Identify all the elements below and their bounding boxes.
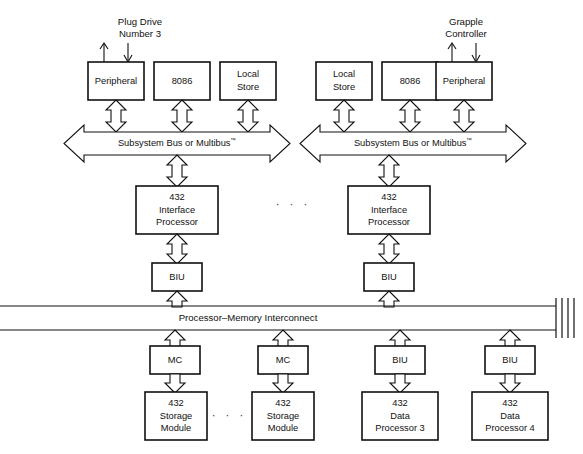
right-bus-to-ip-arrow-icon — [379, 155, 399, 187]
storage-module-2-label-line2: Storage — [267, 411, 300, 421]
right-peripheral-bus-arrow-icon — [454, 100, 474, 132]
storage-module-1-label-line2: Storage — [160, 411, 193, 421]
right-biu-box[interactable]: BIU — [364, 263, 414, 291]
right-bus-label: Subsystem Bus or Multibus™ — [354, 137, 472, 148]
right-ip-to-biu-arrow-icon — [379, 234, 399, 264]
right-peripheral-box[interactable]: Peripheral — [436, 62, 492, 100]
mc-1-label: MC — [168, 355, 183, 365]
left-interface-processor-box[interactable]: 432 Interface Processor — [136, 186, 218, 234]
plug-drive-arrow-down-icon — [124, 43, 132, 62]
mc-1-to-storage-arrow-icon — [165, 374, 185, 393]
data-processor-3-label-line2: Data — [390, 411, 410, 421]
ellipsis-between-storage-modules: · · · — [211, 407, 246, 422]
data-processor-4-box[interactable]: 432 Data Processor 4 — [472, 392, 548, 440]
biu-3-label: BIU — [392, 355, 408, 365]
right-ip-label-line3: Processor — [368, 217, 410, 227]
right-peripheral-label: Peripheral — [443, 76, 485, 86]
storage-module-2-label-line1: 432 — [275, 398, 291, 408]
biu-3-to-data-processor-arrow-icon — [390, 374, 410, 393]
left-local-store-label-line2: Store — [237, 82, 259, 92]
right-8086-box[interactable]: 8086 — [382, 62, 438, 100]
left-peripheral-label: Peripheral — [95, 76, 137, 86]
data-processor-3-box[interactable]: 432 Data Processor 3 — [362, 392, 438, 440]
right-ip-label-line1: 432 — [381, 192, 397, 202]
data-processor-4-label-line3: Processor 4 — [485, 423, 535, 433]
right-biu-to-interconnect-arrow-icon — [379, 291, 399, 307]
left-peripheral-box[interactable]: Peripheral — [88, 62, 144, 100]
left-8086-bus-arrow-icon — [172, 100, 192, 132]
storage-module-1-label-line3: Module — [161, 423, 192, 433]
processor-memory-interconnect-label: Processor–Memory Interconnect — [179, 312, 318, 323]
left-local-store-box[interactable]: Local Store — [220, 62, 276, 100]
plug-drive-label-line2: Number 3 — [119, 28, 161, 39]
diagram-canvas: Plug Drive Number 3 Grapple Controller P… — [0, 0, 583, 454]
right-8086-bus-arrow-icon — [400, 100, 420, 132]
mc-2-label: MC — [276, 355, 291, 365]
storage-module-2-label-line3: Module — [268, 423, 299, 433]
right-8086-label: 8086 — [400, 76, 421, 86]
right-local-store-label-line2: Store — [333, 82, 355, 92]
left-biu-box[interactable]: BIU — [152, 263, 202, 291]
left-8086-label: 8086 — [172, 76, 193, 86]
left-bus-to-ip-arrow-icon — [167, 155, 187, 187]
right-local-store-box[interactable]: Local Store — [316, 62, 372, 100]
right-ip-label-line2: Interface — [371, 205, 407, 215]
grapple-arrow-up-icon — [448, 43, 456, 62]
left-peripheral-bus-arrow-icon — [106, 100, 126, 132]
plug-drive-external-label: Plug Drive Number 3 — [118, 16, 162, 39]
left-bus-label: Subsystem Bus or Multibus™ — [118, 137, 236, 148]
data-processor-4-label-line1: 432 — [502, 398, 518, 408]
biu-4-label: BIU — [502, 355, 518, 365]
col4-interconnect-to-biu-arrow-icon — [500, 330, 520, 347]
col2-interconnect-to-mc-arrow-icon — [273, 330, 293, 347]
grapple-arrow-down-icon — [472, 43, 480, 62]
system-block-diagram: Plug Drive Number 3 Grapple Controller P… — [0, 0, 583, 454]
mc-2-box[interactable]: MC — [258, 346, 308, 374]
plug-drive-arrow-up-icon — [100, 43, 108, 62]
right-local-store-bus-arrow-icon — [334, 100, 354, 132]
left-ip-label-line2: Interface — [159, 205, 195, 215]
right-interface-processor-box[interactable]: 432 Interface Processor — [348, 186, 430, 234]
col1-interconnect-to-mc-arrow-icon — [165, 330, 185, 347]
biu-4-box[interactable]: BIU — [485, 346, 535, 374]
grapple-controller-external-label: Grapple Controller — [445, 16, 487, 39]
right-local-store-label-line1: Local — [333, 69, 355, 79]
left-biu-label: BIU — [169, 272, 185, 282]
ellipsis-between-subsystems: · · · — [275, 196, 310, 211]
storage-module-1-box[interactable]: 432 Storage Module — [145, 392, 207, 440]
mc-2-to-storage-arrow-icon — [273, 374, 293, 393]
storage-module-1-label-line1: 432 — [168, 398, 184, 408]
grapple-controller-label-line1: Grapple — [449, 16, 483, 27]
left-local-store-label-line1: Local — [237, 69, 259, 79]
biu-4-to-data-processor-arrow-icon — [500, 374, 520, 393]
storage-module-2-box[interactable]: 432 Storage Module — [252, 392, 314, 440]
right-subsystem-bus[interactable]: Subsystem Bus or Multibus™ — [300, 125, 526, 162]
left-ip-label-line3: Processor — [156, 217, 198, 227]
mc-1-box[interactable]: MC — [150, 346, 200, 374]
data-processor-3-label-line1: 432 — [392, 398, 408, 408]
plug-drive-label-line1: Plug Drive — [118, 16, 162, 27]
left-local-store-bus-arrow-icon — [238, 100, 258, 132]
left-8086-box[interactable]: 8086 — [154, 62, 210, 100]
data-processor-4-label-line2: Data — [500, 411, 520, 421]
col3-interconnect-to-biu-arrow-icon — [390, 330, 410, 347]
left-biu-to-interconnect-arrow-icon — [167, 291, 187, 307]
right-biu-label: BIU — [381, 272, 397, 282]
data-processor-3-label-line3: Processor 3 — [375, 423, 425, 433]
grapple-controller-label-line2: Controller — [445, 28, 487, 39]
left-ip-to-biu-arrow-icon — [167, 234, 187, 264]
biu-3-box[interactable]: BIU — [375, 346, 425, 374]
left-ip-label-line1: 432 — [169, 192, 185, 202]
processor-memory-interconnect-bar[interactable]: Processor–Memory Interconnect — [0, 298, 574, 338]
